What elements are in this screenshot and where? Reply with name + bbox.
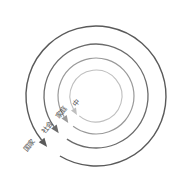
ring-group-3 — [44, 44, 148, 148]
ring-arc-4 — [26, 26, 166, 166]
ring-group-1 — [70, 70, 122, 122]
diagram-canvas: 中 家庭 社会 国家 — [0, 0, 190, 193]
concentric-rings-graphic — [0, 0, 190, 193]
ring-arc-1 — [70, 70, 122, 122]
ring-arrowhead-1 — [71, 108, 77, 116]
ring-group-4 — [26, 26, 166, 166]
ring-arc-3 — [44, 44, 148, 148]
